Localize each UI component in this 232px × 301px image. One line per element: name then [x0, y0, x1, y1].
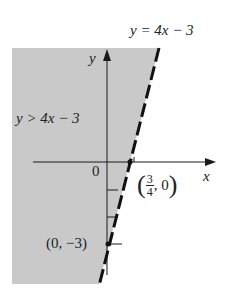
- graph-canvas: [0, 0, 232, 301]
- origin-label: 0: [92, 163, 100, 180]
- inequality-label: y > 4x − 3: [16, 110, 80, 127]
- y-axis-label: y: [89, 50, 96, 67]
- y-intercept-point: [106, 242, 111, 247]
- equation-label: y = 4x − 3: [130, 22, 194, 39]
- x-axis-label: x: [203, 168, 210, 185]
- y-intercept-label: (0, −3): [46, 235, 87, 252]
- x-intercept-label: ( 3 4 , 0 ): [137, 172, 177, 198]
- x-intercept-fraction: 3 4: [146, 173, 154, 198]
- x-intercept-point: [128, 160, 133, 165]
- x-axis-arrow-icon: [205, 158, 216, 166]
